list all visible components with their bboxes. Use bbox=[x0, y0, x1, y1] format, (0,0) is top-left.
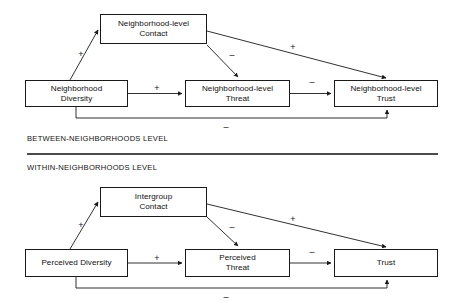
caption-between-neighborhoods-level: BETWEEN-NEIGHBORHOODS LEVEL bbox=[27, 134, 168, 143]
path-sign-diversity-to-contact: + bbox=[78, 50, 83, 59]
node-label: Neighborhood Diversity bbox=[49, 84, 104, 103]
path-sign-pdiversity-to-contact: + bbox=[78, 221, 83, 230]
path-sign-diversity-to-threat: + bbox=[154, 84, 159, 93]
node-intergroup-contact[interactable]: Intergroup Contact bbox=[100, 187, 207, 217]
edge-pdiversity-to-contact bbox=[70, 202, 98, 249]
node-neighborhood-level-threat[interactable]: Neighborhood-level Threat bbox=[185, 80, 290, 107]
panel-divider bbox=[27, 153, 438, 155]
edge-pdiversity-to-trust bbox=[76, 277, 387, 288]
node-label: Neighborhood-level Threat bbox=[200, 84, 275, 103]
node-trust[interactable]: Trust bbox=[334, 249, 438, 277]
edge-diversity-to-trust bbox=[76, 107, 387, 118]
edge-diversity-to-contact bbox=[70, 30, 98, 80]
path-sign-pthreat-to-trust: – bbox=[309, 248, 314, 257]
diagram-root: Neighborhood-level Contact Neighborhood … bbox=[0, 0, 461, 302]
path-sign-threat-to-trust: – bbox=[309, 78, 314, 87]
node-label: Perceived Diversity bbox=[39, 258, 113, 268]
path-sign-pdiversity-to-threat: + bbox=[154, 254, 159, 263]
path-sign-pcontact-to-threat: – bbox=[229, 223, 234, 232]
path-sign-pdiversity-to-trust: – bbox=[223, 293, 228, 302]
caption-within-neighborhoods-level: WITHIN-NEIGHBORHOODS LEVEL bbox=[27, 163, 157, 172]
node-neighborhood-level-trust[interactable]: Neighborhood-level Trust bbox=[334, 80, 438, 107]
node-perceived-threat[interactable]: Perceived Threat bbox=[185, 249, 290, 277]
node-label: Trust bbox=[375, 258, 397, 268]
node-label: Intergroup Contact bbox=[133, 192, 174, 211]
path-sign-pcontact-to-trust: + bbox=[290, 215, 295, 224]
path-sign-contact-to-trust: + bbox=[290, 43, 295, 52]
node-label: Neighborhood-level Trust bbox=[348, 84, 423, 103]
node-label: Perceived Threat bbox=[217, 253, 257, 272]
node-perceived-diversity[interactable]: Perceived Diversity bbox=[25, 249, 128, 277]
node-neighborhood-level-contact[interactable]: Neighborhood-level Contact bbox=[100, 14, 207, 44]
path-sign-contact-to-threat: – bbox=[229, 51, 234, 60]
node-neighborhood-diversity[interactable]: Neighborhood Diversity bbox=[25, 80, 128, 107]
node-label: Neighborhood-level Contact bbox=[116, 19, 191, 38]
path-sign-diversity-to-trust: – bbox=[223, 123, 228, 132]
